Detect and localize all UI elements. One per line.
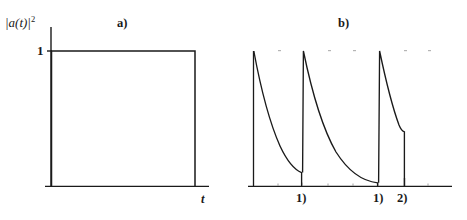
- panel-a-y-axis-label-base: |a(t)|: [5, 15, 31, 30]
- panel-b-peak-level-marks: [278, 50, 431, 51]
- panel-a-rectangular-pulse-curve: [52, 51, 196, 186]
- figure-vector-layer: [0, 0, 467, 220]
- figure-container: |a(t)|2 1 a) t b) 1) 1) 2): [0, 0, 467, 220]
- panel-a-y-axis-label-exponent: 2: [31, 14, 35, 24]
- panel-a-plot: [45, 27, 209, 187]
- panel-b-decay-pulse-2: [303, 51, 378, 186]
- panel-b-x-ticks: [278, 183, 428, 187]
- panel-b-marker-1b: 1): [373, 192, 383, 205]
- panel-a-letter: a): [117, 17, 127, 30]
- panel-b-marker-1a: 1): [296, 192, 306, 205]
- panel-b-decay-pulse-1: [254, 51, 302, 186]
- panel-b-decay-pulse-3: [379, 51, 405, 186]
- panel-a-x-axis-label: t: [201, 193, 204, 206]
- panel-b-letter: b): [338, 17, 349, 30]
- panel-b-plot: [248, 50, 452, 187]
- panel-a-y-axis-label: |a(t)|2: [5, 16, 35, 29]
- panel-a-y-tick-label: 1: [37, 44, 44, 57]
- panel-b-marker-2: 2): [397, 192, 407, 205]
